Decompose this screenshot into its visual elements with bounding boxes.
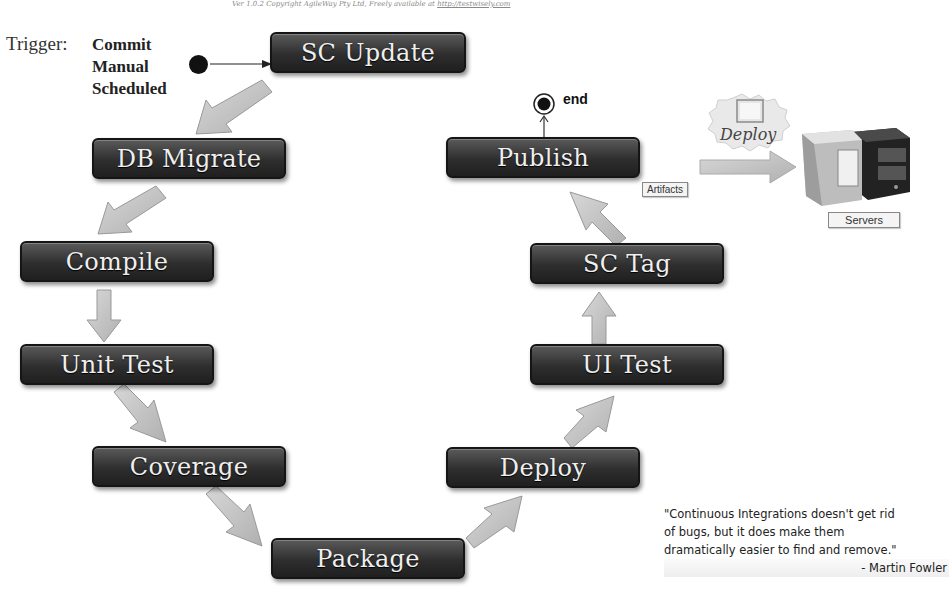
end-label: end <box>563 91 588 107</box>
quote-line-3: dramatically easier to find and remove." <box>664 541 949 559</box>
arrow-db-migrate-to-compile <box>98 186 166 234</box>
arrow-ui-test-to-sc-tag <box>582 292 616 344</box>
step-sc-tag[interactable]: SC Tag <box>530 243 724 284</box>
step-db-migrate[interactable]: DB Migrate <box>92 138 286 179</box>
step-sc-update[interactable]: SC Update <box>270 32 466 73</box>
end-arrow-icon <box>540 116 548 137</box>
quote-line-2: of bugs, but it does make them <box>664 523 949 541</box>
step-compile[interactable]: Compile <box>20 241 214 282</box>
deploy-cloud-label: Deploy <box>720 125 776 144</box>
step-package[interactable]: Package <box>271 538 465 579</box>
arrow-sc-update-to-db-migrate <box>196 80 272 134</box>
quote-author: - Martin Fowler <box>664 559 949 577</box>
quote-block: "Continuous Integrations doesn't get rid… <box>664 505 949 577</box>
trigger-options: Commit Manual Scheduled <box>92 34 167 100</box>
start-node-icon <box>189 55 208 74</box>
step-publish[interactable]: Publish <box>446 137 640 178</box>
arrow-package-to-deploy <box>466 496 522 548</box>
arrow-coverage-to-package <box>206 486 262 546</box>
step-coverage[interactable]: Coverage <box>92 446 286 487</box>
step-unit-test[interactable]: Unit Test <box>20 344 214 385</box>
arrow-deploy-to-ui-test <box>564 396 614 448</box>
trigger-label: Trigger: <box>6 33 68 55</box>
servers-icon <box>802 128 910 206</box>
trigger-arrow-icon <box>210 60 272 68</box>
step-ui-test[interactable]: UI Test <box>530 344 724 385</box>
arrow-sc-tag-to-publish <box>570 192 626 246</box>
arrow-unit-test-to-coverage <box>114 384 166 442</box>
trigger-commit: Commit <box>92 34 167 56</box>
end-node-icon <box>534 94 554 114</box>
arrow-deploy-to-servers <box>700 151 796 183</box>
servers-tag: Servers <box>828 212 900 228</box>
trigger-manual: Manual <box>92 56 167 78</box>
step-deploy[interactable]: Deploy <box>446 447 640 488</box>
artifacts-tag: Artifacts <box>642 182 688 197</box>
trigger-scheduled: Scheduled <box>92 78 167 100</box>
arrow-compile-to-unit-test <box>87 290 121 342</box>
quote-line-1: "Continuous Integrations doesn't get rid <box>664 505 949 523</box>
